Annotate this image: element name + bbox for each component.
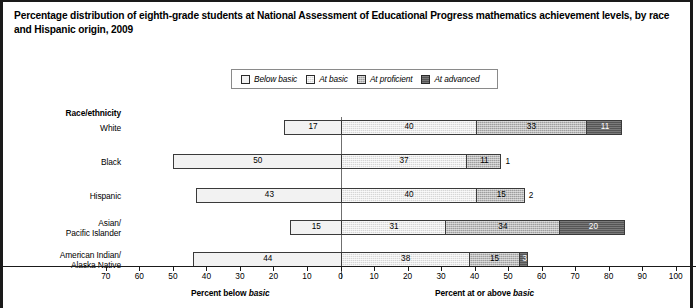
bar-value-label: 50 [253, 157, 262, 165]
legend-item: Below basic [241, 74, 297, 84]
caption-emphasis: basic [513, 288, 534, 298]
bar-segment: 3 [519, 253, 528, 266]
legend-item: At advanced [421, 74, 479, 84]
axis-tick-label: 0 [328, 271, 354, 281]
axis-tick-label: 40 [462, 271, 488, 281]
bar-segment: 15 [291, 221, 341, 234]
bar-value-label: 15 [490, 255, 499, 263]
legend-swatch-icon [306, 75, 315, 84]
bar-value-label: 37 [399, 157, 408, 165]
bar-value-label: 15 [497, 191, 506, 199]
legend-swatch-icon [421, 75, 430, 84]
axis-tick-label: 20 [395, 271, 421, 281]
stacked-bar: 434015 [196, 188, 524, 203]
bar-value-label: 31 [389, 223, 398, 231]
row-label-line: Pacific Islander [11, 228, 121, 238]
bar-segment: 43 [197, 189, 341, 202]
bar-segment: 20 [559, 221, 625, 234]
bar-value-label: 17 [308, 123, 317, 131]
caption-text: Percent at or above [435, 288, 513, 298]
axis-tick-label: 30 [227, 271, 253, 281]
axis-tick-label: 10 [361, 271, 387, 281]
stacked-bar: 4438153 [193, 252, 528, 267]
axis-tick-label: 30 [428, 271, 454, 281]
bar-value-label: 3 [522, 255, 527, 263]
bar-value-label: 38 [401, 255, 410, 263]
legend-label: Below basic [254, 74, 297, 84]
caption-text: Percent below [191, 288, 249, 298]
bar-segment: 40 [341, 189, 475, 202]
bar-value-label-outside: 1 [505, 158, 510, 166]
bar-value-label: 44 [263, 255, 272, 263]
caption-emphasis: basic [249, 288, 270, 298]
bar-segment: 17 [285, 121, 342, 134]
legend-swatch-icon [357, 75, 366, 84]
axis-tick-label: 80 [596, 271, 622, 281]
bar-value-label: 34 [498, 223, 507, 231]
row-label-line: Black [11, 157, 121, 167]
axis-tick-label: 60 [529, 271, 555, 281]
bar-value-label-outside: 2 [529, 192, 534, 200]
axis-tick-label: 70 [93, 271, 119, 281]
row-label-line: American Indian/ [11, 250, 121, 260]
legend-label: At proficient [370, 74, 413, 84]
bar-value-label: 33 [527, 123, 536, 131]
bar-value-label: 43 [265, 191, 274, 199]
stacked-bar: 15313420 [290, 220, 625, 235]
x-axis-caption-right: Percent at or above basic [435, 288, 534, 298]
bar-value-label: 40 [404, 123, 413, 131]
bar-segment: 11 [466, 155, 502, 168]
stacked-bar: 503711 [173, 154, 501, 169]
legend-item: At proficient [357, 74, 413, 84]
chart-title: Percentage distribution of eighth-grade … [14, 9, 674, 36]
bar-value-label: 20 [589, 223, 598, 231]
legend-item: At basic [306, 74, 348, 84]
x-axis-line [3, 266, 696, 267]
row-label: White [11, 123, 121, 133]
bar-segment: 11 [586, 121, 622, 134]
legend-label: At advanced [434, 74, 479, 84]
axis-tick-label: 50 [160, 271, 186, 281]
bar-value-label: 40 [404, 191, 413, 199]
row-label: Asian/Pacific Islander [11, 218, 121, 238]
legend-label: At basic [319, 74, 348, 84]
row-label-line: Hispanic [11, 191, 121, 201]
bar-segment: 44 [194, 253, 341, 266]
axis-tick-label: 40 [193, 271, 219, 281]
bar-value-label: 15 [312, 223, 321, 231]
axis-tick-label: 50 [495, 271, 521, 281]
axis-tick-label: 70 [562, 271, 588, 281]
axis-tick-label: 90 [629, 271, 655, 281]
axis-tick-label: 10 [294, 271, 320, 281]
row-label: Hispanic [11, 191, 121, 201]
bar-segment: 15 [469, 253, 519, 266]
bar-segment: 50 [174, 155, 342, 168]
chart-footnote [17, 303, 677, 308]
chart-legend: Below basicAt basicAt proficientAt advan… [231, 69, 498, 89]
axis-tick-label: 60 [126, 271, 152, 281]
row-label: Black [11, 157, 121, 167]
chart-plot-area: Race/ethnicityWhite17403311Black5037111H… [3, 102, 696, 272]
bar-segment: 34 [445, 221, 559, 234]
stacked-bar: 17403311 [284, 120, 623, 135]
row-label-line: Asian/ [11, 218, 121, 228]
axis-tick-label: 100 [663, 271, 689, 281]
bar-value-label: 11 [480, 157, 489, 165]
bar-segment: 37 [341, 155, 465, 168]
x-axis-caption-left: Percent below basic [191, 288, 270, 298]
x-axis: 706050403020100102030405060708090100 [3, 266, 696, 280]
bar-value-label: 11 [601, 123, 610, 131]
row-group-header: Race/ethnicity [11, 108, 121, 118]
bar-segment: 38 [341, 253, 468, 266]
legend-swatch-icon [241, 75, 250, 84]
axis-tick-label: 20 [260, 271, 286, 281]
bar-segment: 40 [341, 121, 475, 134]
bar-segment: 31 [341, 221, 445, 234]
bar-segment: 33 [476, 121, 587, 134]
row-label-line: White [11, 123, 121, 133]
bar-segment: 15 [476, 189, 525, 202]
